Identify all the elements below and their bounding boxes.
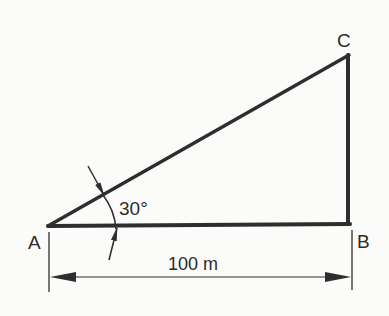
angle-arrow-upper: [88, 166, 104, 195]
vertex-label-b: B: [357, 231, 370, 252]
triangle-diagram: C A B 30° 100 m: [0, 0, 389, 316]
side-ab: [48, 224, 350, 226]
angle-arrow-lower: [109, 228, 117, 260]
dimension-arrow-right: [325, 272, 351, 282]
triangle: [48, 55, 350, 226]
angle-label: 30°: [119, 198, 148, 219]
dimension-arrow-left: [50, 272, 76, 282]
vertex-label-c: C: [337, 30, 351, 51]
diagram-canvas: C A B 30° 100 m: [0, 0, 389, 316]
angle-marker: [88, 166, 117, 260]
side-ac-hypotenuse: [48, 55, 349, 226]
vertex-label-a: A: [28, 232, 41, 253]
dimension-label: 100 m: [168, 254, 218, 274]
